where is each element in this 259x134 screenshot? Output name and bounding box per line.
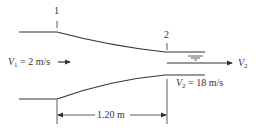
dimension-label: 1.20 m	[97, 109, 125, 120]
outlet-velocity-value-label: V2 = 18 m/s	[176, 77, 223, 90]
section-1-label: 1	[54, 5, 59, 16]
nozzle-diagram: 1 2 V1 = 2 m/s V2 V2 = 18 m/s 1.20 m	[0, 0, 259, 134]
inlet-velocity-label: V1 = 2 m/s	[8, 56, 50, 69]
outlet-velocity-arrow-label: V2	[238, 57, 248, 70]
free-surface-icon	[188, 56, 203, 60]
section-2-label: 2	[164, 29, 169, 40]
nozzle-top-wall	[19, 32, 205, 52]
